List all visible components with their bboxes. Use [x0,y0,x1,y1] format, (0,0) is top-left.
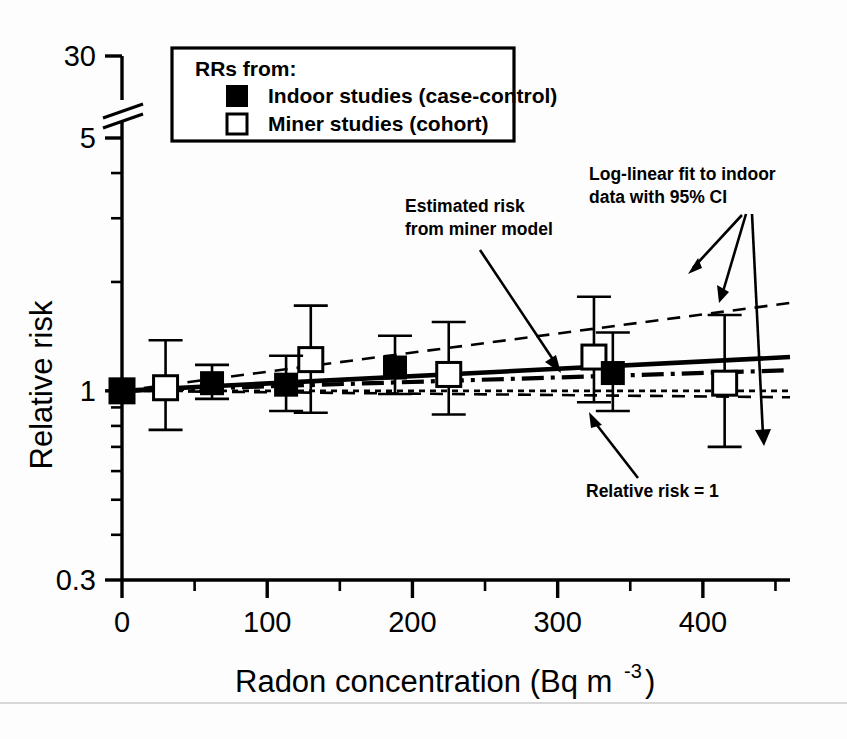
data-point-miner [713,371,737,395]
leader-miner-model [480,250,556,364]
annotation-loglinear-line-2: data with 95% CI [589,187,727,207]
data-point-miner [154,376,178,400]
y-axis: 0.31530 [56,40,143,596]
leader-loglinear-1 [693,215,742,268]
x-tick-label-group: 0100200300400 [114,606,727,638]
legend-marker-miner [227,114,247,134]
x-tick-label: 300 [533,606,581,638]
leader-rr1 [593,420,638,478]
x-tick-label: 200 [388,606,436,638]
x-axis-title-end: ) [645,664,655,699]
leader-loglinear-3 [752,214,763,435]
annotation-loglinear-fit: Log-linear fit to indoor data with 95% C… [589,164,776,446]
x-tick-label: 400 [679,606,727,638]
leader-loglinear-2 [722,214,746,295]
y-tick-label: 5 [80,122,96,154]
legend-marker-indoor [227,86,247,106]
x-axis-title: Radon concentration (Bq m -3 ) [235,660,655,699]
y-tick-label: 30 [64,40,96,72]
legend-title: RRs from: [195,57,297,80]
x-tick-label: 0 [114,606,130,638]
leader-head-rr1 [589,412,602,428]
annotation-miner-line-1: Estimated risk [405,196,525,216]
y-tick-label: 0.3 [56,564,96,596]
x-axis-title-main: Radon concentration (Bq m [235,664,612,699]
annotation-loglinear-line-1: Log-linear fit to indoor [589,164,776,184]
data-point-indoor [602,362,624,384]
leader-head-loglinear-3 [755,429,771,446]
annotation-rr1-line-1: Relative risk = 1 [586,481,719,501]
radon-relative-risk-chart: 0.31530 0100200300400 Relative risk Rado… [0,0,847,739]
data-point-indoor [275,374,297,396]
data-point-indoor [384,357,406,379]
data-point-indoor [201,372,223,394]
y-axis-title: Relative risk [24,300,59,469]
legend-label-indoor: Indoor studies (case-control) [268,84,557,107]
legend: RRs from: Indoor studies (case-control) … [172,48,557,141]
figure-container: 0.31530 0100200300400 Relative risk Rado… [0,0,847,739]
x-tick-group [122,580,775,598]
series-indoor-studies [111,332,630,410]
legend-label-miner: Miner studies (cohort) [268,112,489,135]
annotation-miner-line-2: from miner model [405,219,553,239]
x-axis-title-superscript: -3 [624,660,642,682]
y-tick-label-group: 0.31530 [56,40,96,596]
annotation-miner-model: Estimated risk from miner model [405,196,561,373]
y-tick-group [105,56,122,580]
x-tick-label: 100 [243,606,291,638]
data-point-miner [437,362,461,386]
data-point-indoor [111,380,133,402]
y-tick-label: 1 [80,375,96,407]
x-axis: 0100200300400 [114,580,790,638]
data-point-miner [299,348,323,372]
annotation-relative-risk-one: Relative risk = 1 [586,412,719,501]
